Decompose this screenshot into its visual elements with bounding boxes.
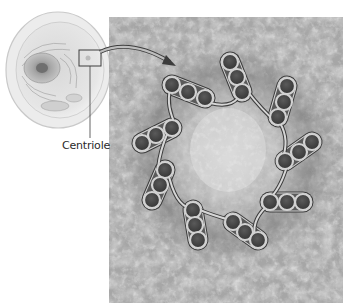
vesicle <box>66 94 82 102</box>
triplet-5 <box>262 194 311 210</box>
centriole-marker <box>86 56 91 61</box>
centriole-label: Centriole <box>62 139 110 152</box>
nucleolus <box>36 63 48 73</box>
cell-illustration <box>6 12 110 138</box>
micrograph <box>109 17 343 303</box>
figure-canvas <box>0 0 356 307</box>
mitochondrion <box>41 101 69 111</box>
figure: Centriole <box>0 0 356 307</box>
